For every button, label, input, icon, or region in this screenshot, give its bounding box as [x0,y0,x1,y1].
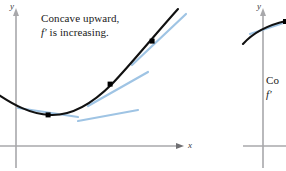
tangency-point-3 [150,39,155,44]
caption-right-derivative-symbol: f′ [266,88,272,100]
caption-right-line-1: Co [266,74,279,88]
tangency-point-2 [108,82,113,87]
concavity-figure: Concave upward, f′ is increasing. y x y [0,0,286,171]
tangency-point-right-1 [283,19,286,24]
caption-line-2: f′ is increasing. [41,26,119,40]
y-axis-label: y [10,1,14,11]
caption-concave-upward: Concave upward, f′ is increasing. [41,12,119,39]
x-axis-label: x [188,140,192,150]
caption-right-line-2: f′ [266,88,279,102]
caption-line-1: Concave upward, [41,12,119,26]
tangency-point-1 [46,112,51,117]
caption-line-2-text: is increasing. [47,26,109,38]
tangent-line-4 [132,14,186,65]
x-axis-arrowhead [176,143,184,149]
tangent-line-2 [78,110,138,121]
figure-panel-left: Concave upward, f′ is increasing. y x [0,0,200,171]
caption-concave-downward: Co f′ [266,74,279,101]
y-axis-label-right: y [257,1,261,11]
y-axis-left [13,8,19,168]
x-axis-left [0,143,184,149]
